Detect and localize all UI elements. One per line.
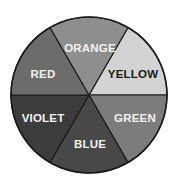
label-orange: ORANGE — [64, 42, 116, 54]
label-yellow: YELLOW — [108, 68, 158, 80]
label-blue: BLUE — [74, 138, 106, 150]
label-green: GREEN — [114, 112, 156, 124]
color-wheel-diagram: YELLOW GREEN BLUE VIOLET RED ORANGE — [0, 0, 180, 193]
label-violet: VIOLET — [22, 112, 65, 124]
label-red: RED — [31, 68, 56, 80]
